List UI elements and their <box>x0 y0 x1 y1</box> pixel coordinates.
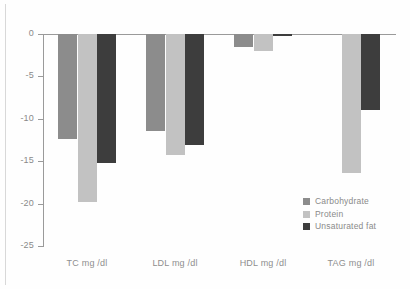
bar <box>146 34 165 131</box>
bar <box>97 34 116 163</box>
legend-swatch-icon <box>303 198 310 205</box>
x-tick-label: TC mg /dl <box>47 258 127 268</box>
bar <box>234 34 253 47</box>
bar <box>185 34 204 145</box>
bar <box>254 34 273 51</box>
bar <box>58 34 77 139</box>
x-tick-label: HDL mg /dl <box>223 258 303 268</box>
legend-item[interactable]: Carbohydrate <box>303 196 376 207</box>
legend-item[interactable]: Unsaturated fat <box>303 221 376 232</box>
chart-legend: CarbohydrateProteinUnsaturated fat <box>303 196 376 234</box>
legend-label: Unsaturated fat <box>315 221 376 232</box>
bar <box>78 34 97 202</box>
y-tick-label: -5 <box>2 70 34 80</box>
chart-figure: 0-5-10-15-20-25 TC mg /dlLDL mg /dlHDL m… <box>0 0 410 289</box>
legend-item[interactable]: Protein <box>303 209 376 220</box>
bar-group <box>58 34 116 246</box>
legend-swatch-icon <box>303 211 310 218</box>
y-tick-label: -20 <box>2 198 34 208</box>
y-tick-label: 0 <box>2 28 34 38</box>
x-tick-label: TAG mg /dl <box>311 258 391 268</box>
legend-swatch-icon <box>303 223 310 230</box>
y-tick-label: -15 <box>2 155 34 165</box>
bar <box>342 34 361 173</box>
bar <box>166 34 185 155</box>
x-tick-label: LDL mg /dl <box>135 258 215 268</box>
bar-group <box>234 34 292 246</box>
y-tick-label: -25 <box>2 240 34 250</box>
legend-label: Carbohydrate <box>315 196 369 207</box>
bar <box>361 34 380 110</box>
y-tick-label: -10 <box>2 113 34 123</box>
bar-group <box>146 34 204 246</box>
y-tick-mark <box>38 246 44 247</box>
legend-label: Protein <box>315 209 343 220</box>
bar <box>273 34 292 36</box>
